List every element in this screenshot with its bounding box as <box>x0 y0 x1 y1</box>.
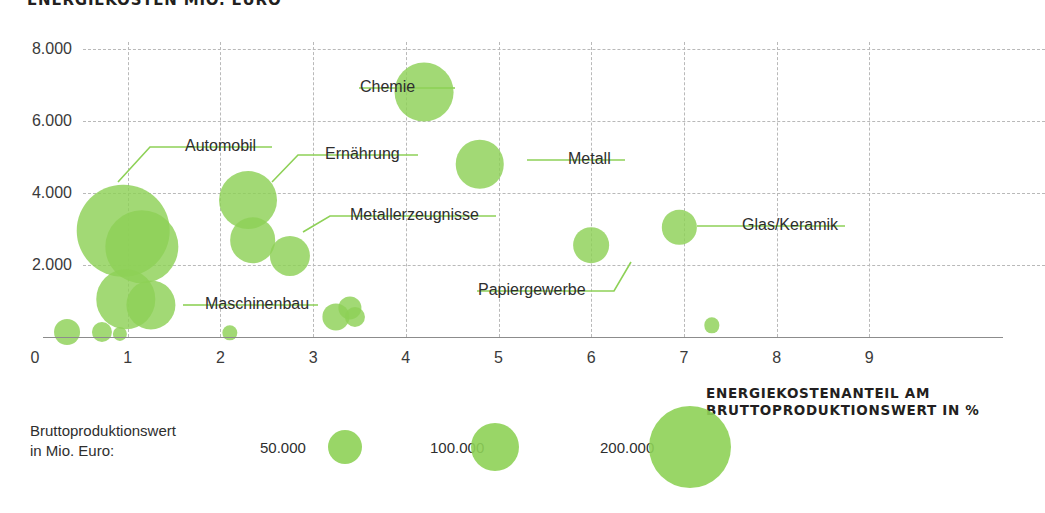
callout-label-chemie: Chemie <box>360 78 415 96</box>
x-axis-line <box>43 337 1003 338</box>
gridline-horizontal <box>83 121 1045 122</box>
bubble-unlabeled-2[interactable] <box>230 217 276 263</box>
x-tick-label: 4 <box>401 349 410 367</box>
x-tick-label: 0 <box>31 349 40 367</box>
legend-bubble-200000 <box>649 406 731 488</box>
gridline-vertical <box>777 42 778 337</box>
gridline-vertical <box>684 42 685 337</box>
legend-title-line2: in Mio. Euro: <box>30 441 176 461</box>
bubble-chart: ENERGIEKOSTEN MIO. EURO 2.0004.0006.0008… <box>0 0 1045 513</box>
legend-bubble-100000 <box>471 423 519 471</box>
bubble-unlabeled-11[interactable] <box>704 318 719 333</box>
gridline-vertical <box>591 42 592 337</box>
x-tick-label: 9 <box>865 349 874 367</box>
bubble-papiergewerbe[interactable] <box>573 227 609 263</box>
x-tick-label: 1 <box>123 349 132 367</box>
legend-title: Bruttoproduktionswert in Mio. Euro: <box>30 421 176 462</box>
bubble-unlabeled-6[interactable] <box>345 307 365 327</box>
legend-label-50000: 50.000 <box>260 439 306 456</box>
gridline-vertical <box>313 42 314 337</box>
y-tick-label: 2.000 <box>32 256 72 274</box>
bubble-unlabeled-9[interactable] <box>113 327 127 341</box>
callout-label-glas-keramik: Glas/Keramik <box>742 216 838 234</box>
callout-label-ernaehrung: Ernährung <box>325 145 400 163</box>
x-tick-label: 2 <box>216 349 225 367</box>
callout-label-metallerzeugnisse: Metallerzeugnisse <box>350 206 479 224</box>
y-tick-label: 8.000 <box>32 40 72 58</box>
bubble-glas-keramik[interactable] <box>662 210 696 244</box>
legend-bubble-50000 <box>328 430 362 464</box>
x-axis-caption-line1: ENERGIEKOSTENANTEIL AM <box>706 385 980 402</box>
bubble-unlabeled-10[interactable] <box>222 325 237 340</box>
x-tick-label: 5 <box>494 349 503 367</box>
y-tick-label: 4.000 <box>32 184 72 202</box>
legend-title-line1: Bruttoproduktionswert <box>30 421 176 441</box>
gridline-horizontal <box>83 265 1045 266</box>
gridline-vertical <box>869 42 870 337</box>
gridline-horizontal <box>83 49 1045 50</box>
bubble-metall[interactable] <box>456 140 505 189</box>
x-tick-label: 3 <box>309 349 318 367</box>
bubble-unlabeled-8[interactable] <box>92 322 112 342</box>
x-tick-label: 7 <box>679 349 688 367</box>
size-legend: Bruttoproduktionswert in Mio. Euro: 50.0… <box>30 415 1030 505</box>
x-axis-caption: ENERGIEKOSTENANTEIL AM BRUTTOPRODUKTIONS… <box>706 385 980 419</box>
x-tick-label: 8 <box>772 349 781 367</box>
bubble-metallerzeugnisse[interactable] <box>270 236 310 276</box>
bubble-unlabeled-3[interactable] <box>126 280 175 329</box>
x-tick-label: 6 <box>587 349 596 367</box>
callout-label-metall: Metall <box>568 150 611 168</box>
callout-label-automobil: Automobil <box>185 137 256 155</box>
y-tick-label: 6.000 <box>32 112 72 130</box>
callout-label-maschinenbau: Maschinenbau <box>205 295 309 313</box>
legend-label-200000: 200.000 <box>600 439 654 456</box>
callout-label-papiergewerbe: Papiergewerbe <box>478 281 586 299</box>
